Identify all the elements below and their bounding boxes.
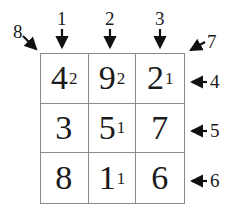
cell-r1c3: 21 bbox=[136, 54, 184, 104]
antidiag-label: 7 bbox=[207, 32, 217, 51]
cell-r2c2: 51 bbox=[89, 104, 137, 154]
cell-r3c2: 11 bbox=[89, 153, 137, 203]
cell-r1c1: 42 bbox=[41, 54, 89, 104]
col2-label: 2 bbox=[105, 9, 115, 28]
magic-square-grid: 42 92 21 3 51 7 8 11 6 bbox=[40, 53, 185, 204]
cell-r2c3: 7 bbox=[136, 104, 184, 154]
cell-r3c3: 6 bbox=[136, 153, 184, 203]
cell-r1c2: 92 bbox=[89, 54, 137, 104]
row1-label: 4 bbox=[210, 72, 220, 91]
col1-label: 1 bbox=[57, 9, 67, 28]
diag-label: 8 bbox=[13, 22, 23, 41]
arrow-diag bbox=[23, 36, 36, 49]
arrow-antidiag bbox=[191, 42, 205, 50]
cell-r3c1: 8 bbox=[41, 153, 89, 203]
row3-label: 6 bbox=[210, 171, 220, 190]
cell-r2c1: 3 bbox=[41, 104, 89, 154]
col3-label: 3 bbox=[155, 9, 165, 28]
row2-label: 5 bbox=[210, 121, 220, 140]
